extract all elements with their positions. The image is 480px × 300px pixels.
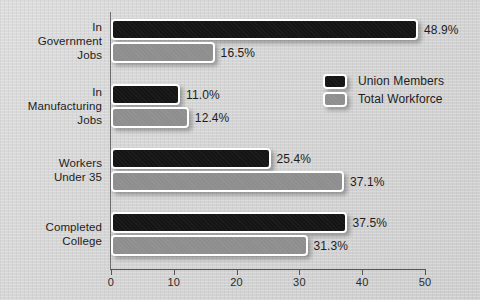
category-label: In Manufacturing Jobs — [28, 85, 102, 127]
legend-label-total-workforce: Total Workforce — [358, 92, 443, 106]
axis-tick — [111, 269, 112, 275]
axis-tick-label: 30 — [293, 276, 306, 288]
axis-tick-label: 40 — [356, 276, 369, 288]
bar-total-workforce[interactable] — [111, 235, 308, 256]
axis-tick-label: 50 — [419, 276, 432, 288]
bar-total-workforce[interactable] — [111, 171, 344, 192]
bar-value-label: 48.9% — [424, 23, 459, 37]
bar-value-label: 37.1% — [350, 175, 385, 189]
bar-union-members[interactable] — [111, 19, 418, 40]
axis-tick — [299, 269, 300, 275]
bar-chart: 01020304050 In Government JobsIn Manufac… — [0, 0, 480, 300]
category-label: Completed College — [45, 220, 102, 248]
axis-tick-label: 0 — [108, 276, 114, 288]
axis-tick — [237, 269, 238, 275]
axis-tick-label: 10 — [167, 276, 180, 288]
bar-union-members[interactable] — [111, 212, 347, 233]
legend-item-total-workforce[interactable]: Total Workforce — [323, 90, 444, 108]
bar-value-label: 12.4% — [195, 111, 230, 125]
bar-value-label: 31.3% — [314, 239, 349, 253]
bar-value-label: 11.0% — [186, 88, 220, 102]
bar-union-members[interactable] — [111, 84, 180, 105]
category-label: In Government Jobs — [38, 20, 102, 62]
axis-tick-label: 20 — [230, 276, 243, 288]
value-axis-line — [110, 269, 426, 270]
legend-swatch-union-members — [323, 74, 347, 89]
bar-value-label: 37.5% — [353, 216, 388, 230]
axis-tick — [425, 269, 426, 275]
legend: Union Members Total Workforce — [323, 72, 444, 108]
legend-swatch-total-workforce — [323, 92, 347, 107]
bar-value-label: 16.5% — [221, 46, 256, 60]
axis-tick — [362, 269, 363, 275]
bar-total-workforce[interactable] — [111, 107, 189, 128]
bar-union-members[interactable] — [111, 148, 271, 169]
legend-label-union-members: Union Members — [358, 74, 444, 88]
legend-item-union-members[interactable]: Union Members — [323, 72, 444, 90]
bar-value-label: 25.4% — [277, 152, 312, 166]
axis-tick — [174, 269, 175, 275]
category-label: Workers Under 35 — [54, 156, 102, 184]
bar-total-workforce[interactable] — [111, 42, 215, 63]
